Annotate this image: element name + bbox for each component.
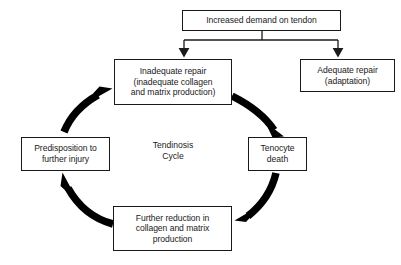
- node-increased-demand-on-tendon: Increased demand on tendon: [182, 10, 341, 31]
- node-predisposition-to-further-injury: Predisposition to further injury: [21, 137, 110, 171]
- node-tenocyte-death: Tenocyte death: [248, 137, 307, 171]
- tendinosis-cycle-diagram: Increased demand on tendon Inadequate re…: [0, 0, 401, 265]
- arc-predisposition-to-inadequate: [64, 87, 113, 133]
- diagram-center-label: Tendinosis Cycle: [128, 140, 218, 162]
- node-further-reduction-in-collagen-and-matrix-production: Further reduction in collagen and matrix…: [113, 206, 232, 251]
- arc-tenocyte-to-further-reduction: [235, 173, 277, 222]
- arc-further-reduction-to-predisposition: [61, 173, 114, 225]
- arc-inadequate-to-tenocyte: [232, 96, 284, 138]
- node-inadequate-repair: Inadequate repair (inadequate collagen a…: [114, 59, 232, 105]
- node-adequate-repair: Adequate repair (adaptation): [300, 59, 395, 92]
